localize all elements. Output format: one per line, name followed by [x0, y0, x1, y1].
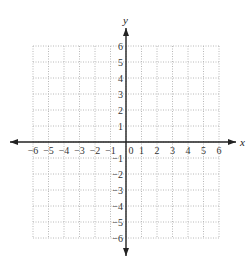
y-tick-label: −6: [112, 233, 123, 244]
y-tick-label: 6: [118, 41, 123, 52]
x-tick-label: 6: [217, 145, 222, 156]
x-tick-label: 0: [129, 145, 134, 156]
y-tick-label: 2: [118, 105, 123, 116]
x-tick-label: 4: [186, 145, 191, 156]
y-tick-label: −2: [112, 169, 123, 180]
y-axis-label: y: [122, 14, 128, 26]
y-tick-label: 3: [118, 89, 123, 100]
y-tick-label: −4: [112, 201, 123, 212]
x-tick-label: −4: [59, 145, 70, 156]
x-tick-label: −2: [90, 145, 101, 156]
y-axis-arrow-up-icon: [123, 28, 129, 36]
y-axis-arrow-down-icon: [123, 248, 129, 256]
x-tick-label: −3: [74, 145, 85, 156]
y-tick-label: −1: [112, 153, 123, 164]
x-axis-arrow-right-icon: [228, 139, 236, 145]
x-axis-arrow-left-icon: [10, 139, 18, 145]
x-tick-label: 3: [170, 145, 175, 156]
y-tick-label: 4: [118, 73, 123, 84]
x-tick-label: −5: [43, 145, 54, 156]
x-tick-label: 5: [201, 145, 206, 156]
x-tick-label: −6: [28, 145, 39, 156]
y-tick-label: −5: [112, 217, 123, 228]
y-tick-label: 1: [118, 121, 123, 132]
coordinate-plane: xy−6−5−4−3−2−10123456123456−1−2−3−4−5−6: [0, 0, 252, 267]
x-axis-label: x: [239, 136, 245, 148]
y-tick-label: −3: [112, 185, 123, 196]
y-tick-label: 5: [118, 57, 123, 68]
x-tick-label: 1: [139, 145, 144, 156]
tick-labels: xy−6−5−4−3−2−10123456123456−1−2−3−4−5−6: [28, 14, 245, 244]
x-tick-label: 2: [155, 145, 160, 156]
